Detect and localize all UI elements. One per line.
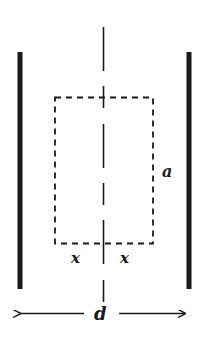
label-a: a (162, 162, 172, 181)
label-x-right: x (119, 249, 130, 267)
diagram-canvas: a x x d (0, 0, 201, 344)
label-x-left: x (70, 249, 81, 267)
label-d: d (94, 303, 107, 324)
